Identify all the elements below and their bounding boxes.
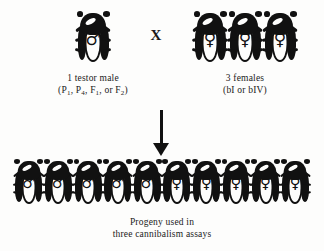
female-sex-symbol: ♀	[237, 31, 254, 48]
male-parent-label-line1: 1 testor male	[18, 72, 168, 84]
beetle-antenna	[126, 159, 132, 164]
beetle-antenna	[245, 159, 251, 164]
beetle-progeny-female: ♀	[251, 158, 281, 209]
beetle-antenna	[74, 159, 80, 164]
beetle-antenna	[229, 11, 236, 17]
beetle-antenna	[103, 11, 110, 17]
genotype-P4: P4	[76, 85, 85, 95]
beetle-antenna	[290, 11, 297, 17]
beetle-antenna	[156, 159, 162, 164]
beetle-antenna	[222, 159, 228, 164]
down-arrow	[146, 110, 178, 158]
female-parent-label-line1: 3 females	[175, 72, 315, 84]
beetle-antenna	[185, 159, 191, 164]
genotype-subscript: 1	[96, 89, 100, 97]
genotype-F2: F2	[115, 85, 124, 95]
beetle-progeny-male: ♂	[73, 158, 103, 209]
beetle-progeny-female: ♀	[280, 158, 310, 209]
beetle-progeny-male: ♂	[103, 158, 133, 209]
beetle-progeny-male: ♂	[132, 158, 162, 209]
arrow-shaft	[160, 110, 163, 146]
progeny-caption-line2: three cannibalism assays	[0, 228, 324, 240]
beetle-antenna	[255, 11, 262, 17]
beetle-female-parent: ♀	[228, 10, 262, 68]
female-sex-symbol: ♀	[199, 176, 214, 191]
female-sex-symbol: ♀	[202, 31, 219, 48]
beetle-antenna	[192, 159, 198, 164]
beetle-female-parent: ♀	[193, 10, 227, 68]
breeding-cross-diagram: ♂ 1 testor male (P1, P4, F1, or F2) X ♀♀…	[0, 0, 324, 251]
beetle-antenna	[304, 159, 310, 164]
male-parent-group: ♂ 1 testor male (P1, P4, F1, or F2)	[18, 10, 168, 97]
progeny-caption-line1: Progeny used in	[0, 216, 324, 228]
beetle-antenna	[264, 11, 271, 17]
beetle-antenna	[281, 159, 287, 164]
male-sex-symbol: ♂	[51, 176, 66, 191]
beetle-progeny-female: ♀	[192, 158, 222, 209]
female-sex-symbol: ♀	[258, 176, 273, 191]
beetle-antenna	[133, 159, 139, 164]
female-sex-symbol: ♀	[229, 176, 244, 191]
beetle-antenna	[37, 159, 43, 164]
beetle-antenna	[44, 159, 50, 164]
beetle-antenna	[194, 11, 201, 17]
male-sex-symbol: ♂	[110, 176, 125, 191]
beetle-female-parent: ♀	[263, 10, 297, 68]
beetle-male-parent: ♂	[76, 10, 110, 68]
beetle-antenna	[274, 159, 280, 164]
beetle-antenna	[215, 159, 221, 164]
progeny-beetle-row: ♂♂♂♂♂♀♀♀♀♀	[14, 158, 310, 209]
female-sex-symbol: ♀	[288, 176, 303, 191]
beetle-antenna	[251, 159, 257, 164]
cross-symbol: X	[145, 27, 167, 44]
genotype-subscript: 2	[121, 89, 125, 97]
beetle-progeny-female: ♀	[221, 158, 251, 209]
beetle-antenna	[97, 159, 103, 164]
male-sex-symbol: ♂	[81, 176, 96, 191]
beetle-progeny-male: ♂	[14, 158, 44, 209]
beetle-antenna	[162, 159, 168, 164]
genotype-P1: P1	[61, 85, 70, 95]
beetle-progeny-female: ♀	[162, 158, 192, 209]
female-sex-symbol: ♀	[272, 31, 289, 48]
male-sex-symbol: ♂	[85, 31, 102, 48]
female-beetle-row: ♀♀♀	[175, 10, 315, 72]
beetle-antenna	[77, 11, 84, 17]
beetle-antenna	[14, 159, 20, 164]
female-parent-label-line2: (bI or bIV)	[175, 84, 315, 96]
genotype-F1: F1	[90, 85, 99, 95]
genotype-subscript: 1	[67, 89, 71, 97]
genotype-subscript: 4	[81, 89, 85, 97]
beetle-antenna	[67, 159, 73, 164]
female-parent-group: ♀♀♀ 3 females (bI or bIV)	[175, 10, 315, 96]
male-sex-symbol: ♂	[21, 176, 36, 191]
female-sex-symbol: ♀	[169, 176, 184, 191]
beetle-antenna	[220, 11, 227, 17]
arrow-head	[153, 143, 169, 156]
male-sex-symbol: ♂	[140, 176, 155, 191]
male-parent-genotype-label: (P1, P4, F1, or F2)	[18, 84, 168, 97]
progeny-caption: Progeny used in three cannibalism assays	[0, 216, 324, 240]
beetle-antenna	[103, 159, 109, 164]
beetle-progeny-male: ♂	[44, 158, 74, 209]
